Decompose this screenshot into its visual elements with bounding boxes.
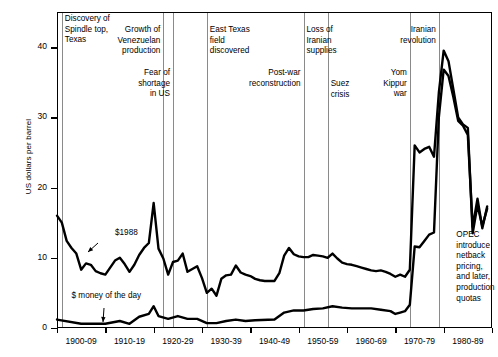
series-line [57,51,487,296]
callout-arrow-head [101,317,105,322]
price-series-lines [0,0,498,357]
oil-price-chart: US dollars per barrel 010203040 1900-091… [0,0,498,357]
series-line [57,70,487,324]
